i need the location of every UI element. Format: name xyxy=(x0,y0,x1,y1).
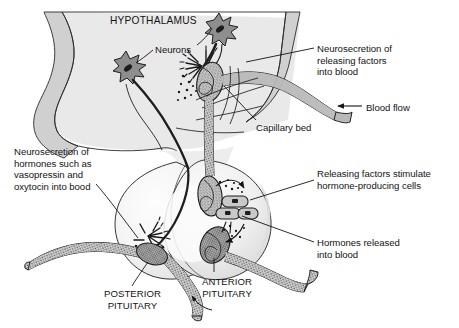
portal-vessel xyxy=(204,100,214,176)
label-releasing-factors-stimulate: Releasing factors stimulate hormone-prod… xyxy=(317,168,431,191)
label-hormones-released: Hormones released into blood xyxy=(317,237,400,260)
label-neurosecretion-hormones: Neurosecretion of hormones such as vasop… xyxy=(14,146,92,192)
label-neurosecretion-releasing-factors: Neurosecretion of releasing factors into… xyxy=(317,43,392,78)
label-capillary-bed: Capillary bed xyxy=(256,122,311,134)
label-posterior-pituitary: POSTERIOR PITUITARY xyxy=(104,288,161,311)
diagram-canvas: HYPOTHALAMUS Neurons Neurosecretion of r… xyxy=(0,0,459,328)
label-neurons: Neurons xyxy=(155,44,191,56)
label-anterior-pituitary: ANTERIOR PITUITARY xyxy=(202,276,252,299)
label-blood-flow: Blood flow xyxy=(366,102,410,114)
label-hypothalamus: HYPOTHALAMUS xyxy=(110,15,197,27)
